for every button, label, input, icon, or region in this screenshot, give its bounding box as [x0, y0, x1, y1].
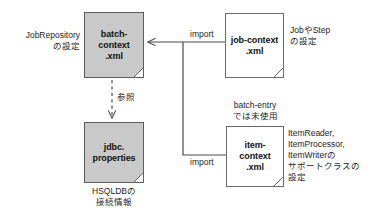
node-job-context-label: job-context .xml	[231, 35, 278, 57]
caption-job-or-step: JobやStep の設定	[290, 25, 372, 47]
node-batch-context-label: batch- context .xml	[98, 29, 129, 62]
node-item-context-label: item- context .xml	[239, 140, 270, 173]
page-fold-icon	[133, 67, 144, 78]
node-item-context-xml[interactable]: item- context .xml	[226, 126, 284, 187]
caption-job-repository: JobRepository の設定	[2, 30, 80, 52]
node-batch-context-xml[interactable]: batch- context .xml	[84, 12, 144, 78]
diagram-canvas: batch- context .xml jdbc. properties job…	[0, 0, 374, 224]
page-fold-icon	[133, 172, 144, 183]
edge-label-import-top: import	[190, 29, 214, 39]
caption-hsqldb: HSQLDBの 接続情報	[74, 186, 154, 208]
edge-label-import-bottom: import	[190, 157, 214, 167]
caption-batch-entry-unused: batch-entry では未使用	[205, 100, 305, 122]
page-fold-icon	[273, 67, 284, 78]
node-job-context-xml[interactable]: job-context .xml	[225, 13, 284, 78]
edge-item-context-import	[183, 42, 226, 155]
node-jdbc-properties[interactable]: jdbc. properties	[84, 122, 144, 183]
page-fold-icon	[273, 176, 284, 187]
edge-label-reference: 参照	[117, 92, 135, 102]
caption-item-support: ItemReader, ItemProcessor, ItemWriterの サ…	[288, 128, 374, 183]
node-jdbc-properties-label: jdbc. properties	[92, 142, 135, 164]
